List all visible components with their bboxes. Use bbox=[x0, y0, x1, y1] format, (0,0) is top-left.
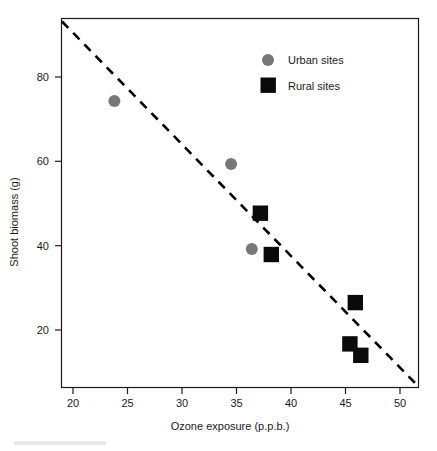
data-point-urban bbox=[246, 243, 258, 255]
data-point-rural bbox=[264, 247, 279, 262]
x-tick-label-30: 30 bbox=[176, 397, 188, 409]
series-urban-sites bbox=[108, 95, 257, 255]
data-point-rural bbox=[353, 348, 368, 363]
legend-marker-urban-circle-icon bbox=[262, 54, 274, 66]
y-axis-title: Shoot biomass (g) bbox=[8, 177, 20, 266]
data-point-rural bbox=[253, 206, 268, 221]
data-point-urban bbox=[108, 95, 120, 107]
caption-edge-artifact bbox=[14, 441, 106, 445]
chart-legend: Urban sites Rural sites bbox=[261, 54, 345, 93]
x-tick-label-45: 45 bbox=[339, 397, 351, 409]
x-tick-label-35: 35 bbox=[230, 397, 242, 409]
scatter-plot-figure: 20 40 60 80 20 25 30 35 40 45 50 Ozone e… bbox=[0, 0, 437, 451]
y-axis-ticks bbox=[55, 77, 62, 330]
x-tick-label-40: 40 bbox=[285, 397, 297, 409]
legend-marker-rural-square-icon bbox=[261, 78, 276, 93]
x-tick-label-50: 50 bbox=[394, 397, 406, 409]
data-point-rural bbox=[348, 295, 363, 310]
series-rural-sites bbox=[253, 206, 369, 364]
data-point-urban bbox=[225, 158, 237, 170]
trend-line-dashed bbox=[62, 22, 418, 387]
legend-label-rural: Rural sites bbox=[288, 80, 340, 92]
y-tick-label-40: 40 bbox=[37, 240, 49, 252]
y-axis-tick-labels: 20 40 60 80 bbox=[37, 71, 49, 336]
y-tick-label-80: 80 bbox=[37, 71, 49, 83]
y-tick-label-20: 20 bbox=[37, 324, 49, 336]
x-tick-label-20: 20 bbox=[67, 397, 79, 409]
chart-canvas: 20 40 60 80 20 25 30 35 40 45 50 Ozone e… bbox=[0, 0, 437, 451]
x-axis-title: Ozone exposure (p.p.b.) bbox=[171, 420, 290, 432]
x-tick-label-25: 25 bbox=[121, 397, 133, 409]
y-tick-label-60: 60 bbox=[37, 155, 49, 167]
x-axis-ticks bbox=[73, 388, 400, 395]
x-axis-tick-labels: 20 25 30 35 40 45 50 bbox=[67, 397, 406, 409]
legend-label-urban: Urban sites bbox=[288, 54, 344, 66]
